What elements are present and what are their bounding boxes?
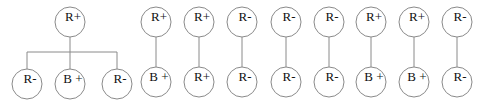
pair-bottom-node: R-: [227, 67, 257, 97]
pair-top-node: R+: [184, 7, 214, 37]
pair-top-node: R+: [356, 7, 386, 37]
pair-bottom-node: R-: [314, 67, 344, 97]
pair-top-node: R-: [227, 7, 257, 37]
node-label: R+: [151, 9, 167, 24]
node-label: B +: [149, 69, 168, 84]
node-label: R-: [239, 69, 252, 84]
node-label: R-: [326, 9, 339, 24]
pair-top-node: R-: [314, 7, 344, 37]
tree-root-node: R+: [55, 7, 85, 37]
tree-child-node: R-: [12, 69, 42, 99]
node-label: R-: [114, 71, 127, 86]
node-label: R-: [454, 9, 467, 24]
node-label: R-: [283, 9, 296, 24]
node-label: R-: [454, 69, 467, 84]
node-label: R+: [194, 69, 210, 84]
pair-bottom-node: R-: [442, 67, 472, 97]
pair-bottom-node: B +: [141, 67, 171, 97]
node-label: R+: [366, 9, 382, 24]
node-label: R+: [65, 9, 81, 24]
pair-bottom-node: R-: [271, 67, 301, 97]
pair-bottom-node: B +: [356, 67, 386, 97]
node-label: R-: [326, 69, 339, 84]
diagram-canvas: R+R-B +R-R+B +R+R+R-R-R-R-R-R-R+B +R+B +…: [0, 0, 483, 104]
node-label: R+: [409, 9, 425, 24]
node-label: B +: [364, 69, 383, 84]
node-label: R-: [24, 71, 37, 86]
pair-top-node: R-: [442, 7, 472, 37]
pair-top-node: R-: [271, 7, 301, 37]
node-label: R-: [239, 9, 252, 24]
pair-bottom-node: R+: [184, 67, 214, 97]
node-label: R-: [283, 69, 296, 84]
tree-child-node: R-: [102, 69, 132, 99]
node-label: R+: [194, 9, 210, 24]
node-label: B +: [63, 71, 82, 86]
tree-child-node: B +: [55, 69, 85, 99]
pair-top-node: R+: [399, 7, 429, 37]
pair-top-node: R+: [141, 7, 171, 37]
pair-bottom-node: B +: [399, 67, 429, 97]
node-label: B +: [407, 69, 426, 84]
